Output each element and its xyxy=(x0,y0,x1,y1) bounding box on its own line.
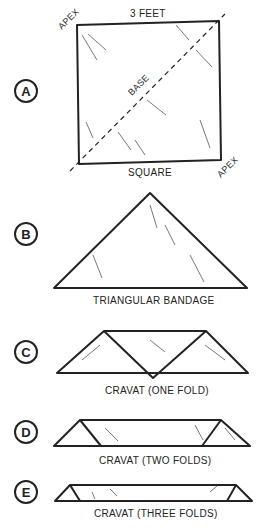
caption-b: TRIANGULAR BANDAGE xyxy=(93,295,215,306)
caption-a: SQUARE xyxy=(128,167,172,178)
dimension-label: 3 FEET xyxy=(130,8,166,19)
caption-e: CRAVAT (THREE FOLDS) xyxy=(94,508,218,519)
panel-label-d: D xyxy=(14,420,38,444)
cravat-one-fold xyxy=(57,331,248,373)
panel-label-b: B xyxy=(14,222,38,246)
shading-marks xyxy=(82,25,235,499)
caption-d: CRAVAT (TWO FOLDS) xyxy=(99,455,211,466)
cravat-three-folds xyxy=(55,485,252,501)
caption-c: CRAVAT (ONE FOLD) xyxy=(105,385,209,396)
panel-label-e: E xyxy=(14,480,38,504)
bandage-diagram xyxy=(0,0,265,530)
panel-label-c: C xyxy=(14,340,38,364)
panel-label-a: A xyxy=(14,79,38,103)
